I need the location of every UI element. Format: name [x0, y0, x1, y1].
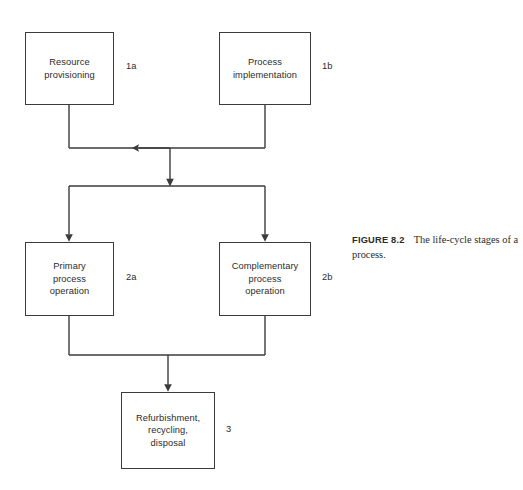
- arrowhead-into-split-bar: [166, 179, 174, 187]
- step-tag-3: 3: [226, 424, 231, 434]
- arrowhead-into-complementary: [261, 234, 269, 242]
- step-tag-2a: 2a: [126, 272, 137, 282]
- figure-life-cycle-stages: Resource provisioning 1a Process impleme…: [0, 0, 523, 490]
- node-label-complementary-process-operation: Complementary process operation: [228, 260, 303, 297]
- step-tag-1b: 1b: [322, 61, 333, 71]
- node-label-process-implementation: Process implementation: [229, 56, 301, 81]
- step-tag-2b: 2b: [322, 272, 333, 282]
- figure-caption-number: FIGURE 8.2: [352, 235, 405, 245]
- node-label-resource-provisioning: Resource provisioning: [40, 56, 99, 81]
- node-complementary-process-operation: Complementary process operation: [219, 242, 311, 316]
- arrowhead-into-refurbishment: [164, 384, 172, 392]
- node-primary-process-operation: Primary process operation: [25, 242, 114, 316]
- node-process-implementation: Process implementation: [219, 32, 311, 105]
- node-refurbishment-recycling-disposal: Refurbishment, recycling, disposal: [121, 392, 215, 469]
- node-label-refurbishment-recycling-disposal: Refurbishment, recycling, disposal: [132, 412, 204, 449]
- step-tag-1a: 1a: [126, 61, 137, 71]
- node-resource-provisioning: Resource provisioning: [25, 32, 114, 105]
- node-label-primary-process-operation: Primary process operation: [46, 260, 94, 297]
- figure-caption: FIGURE 8.2The life-cycle stages of a pro…: [352, 233, 520, 261]
- arrowhead-into-primary: [65, 234, 73, 242]
